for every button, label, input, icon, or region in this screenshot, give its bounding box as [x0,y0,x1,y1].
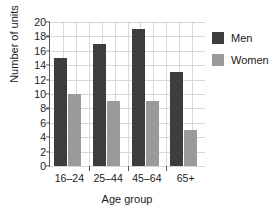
bar-group [166,22,205,166]
x-axis-group-separator [128,166,129,171]
bar-men-3[interactable] [170,72,183,166]
legend-swatch-men-icon [212,32,224,44]
bars-layer [50,22,205,166]
legend-item-women[interactable]: Women [212,49,269,71]
bar-group [128,22,167,166]
x-axis-tick-label: 16–24 [55,172,84,184]
y-axis-tick-label: 18 [34,31,46,42]
x-axis-tick-label: 45–64 [132,172,161,184]
y-axis-tick-mark [46,21,50,22]
y-axis-tick-mark [46,165,50,166]
bar-men-2[interactable] [132,29,145,166]
plot-area: 0246810121416182016–2425–4445–6465+ [49,22,205,167]
legend-swatch-women-icon [212,54,224,66]
bar-group [50,22,89,166]
y-axis-tick-label: 14 [34,60,46,71]
legend-label-women: Women [231,54,269,66]
legend-label-men: Men [231,32,252,44]
y-axis-tick-mark [46,93,50,94]
y-axis-tick-label: 0 [40,161,46,172]
bar-women-2[interactable] [146,101,159,166]
bar-men-1[interactable] [93,44,106,166]
y-axis-tick-label: 10 [34,89,46,100]
y-axis-tick-label: 8 [40,103,46,114]
y-axis-tick-label: 16 [34,46,46,57]
x-axis-tick-label: 65+ [177,172,195,184]
y-axis-tick-mark [46,108,50,109]
y-axis-tick-mark [46,79,50,80]
y-axis-tick-mark [46,65,50,66]
legend-item-men[interactable]: Men [212,27,269,49]
chart-title [36,0,206,3]
x-axis-group-separator [89,166,90,171]
y-axis-tick-label: 2 [40,146,46,157]
y-axis-tick-mark [46,36,50,37]
bar-group [89,22,128,166]
y-axis-label: Number of units [8,0,20,104]
x-axis-tick-label: 25–44 [94,172,123,184]
y-axis-tick-mark [46,137,50,138]
y-axis-tick-label: 6 [40,118,46,129]
chart-legend: Men Women [212,27,269,71]
y-axis-tick-mark [46,50,50,51]
bar-women-3[interactable] [184,130,197,166]
y-axis-tick-label: 4 [40,132,46,143]
y-axis-tick-label: 12 [34,74,46,85]
x-axis-group-separator [166,166,167,171]
y-axis-tick-mark [46,122,50,123]
bar-men-0[interactable] [54,58,67,166]
bar-chart-figure: 0246810121416182016–2425–4445–6465+ Numb… [0,0,279,215]
y-axis-tick-mark [46,151,50,152]
bar-women-0[interactable] [68,94,81,166]
bar-women-1[interactable] [107,101,120,166]
y-axis-tick-label: 20 [34,17,46,28]
x-axis-label: Age group [49,193,205,205]
